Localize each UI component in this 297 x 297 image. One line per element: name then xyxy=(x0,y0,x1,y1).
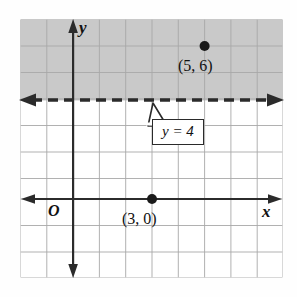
coordinate-plane-svg xyxy=(0,0,297,297)
x-axis-label: x xyxy=(262,203,271,220)
point-label-5-6: (5, 6) xyxy=(178,58,213,74)
point-label-3-0: (3, 0) xyxy=(122,211,157,227)
graph-figure: y x O (5, 6) (3, 0) y = 4 xyxy=(0,0,297,297)
y-axis-label: y xyxy=(79,19,87,36)
point-marker-5-6 xyxy=(200,41,210,51)
origin-label: O xyxy=(48,203,60,219)
line-equation-callout: y = 4 xyxy=(152,119,204,145)
point-marker-3-0 xyxy=(147,194,157,204)
shaded-region xyxy=(21,20,283,101)
